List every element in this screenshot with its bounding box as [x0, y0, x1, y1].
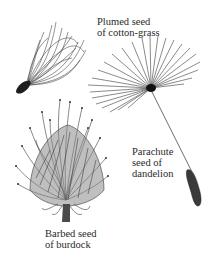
- label-cotton-grass-line-1: Plumed seed: [97, 16, 160, 27]
- label-burdock-line-2: of burdock: [45, 239, 97, 250]
- label-cotton-grass-line-2: of cotton-grass: [97, 27, 160, 38]
- burdock-stem: [62, 204, 70, 222]
- seed-illustration: [0, 0, 219, 257]
- label-burdock: Barbed seed of burdock: [45, 228, 97, 250]
- cotton-grass-seed-body: [16, 81, 31, 94]
- label-dandelion-line-2: seed of: [132, 157, 173, 168]
- burdock-head-body: [30, 125, 104, 206]
- cotton-grass-seed-drawing: [27, 22, 86, 85]
- label-dandelion-line-3: dandelion: [132, 168, 173, 179]
- label-dandelion-line-1: Parachute: [132, 146, 173, 157]
- label-burdock-line-1: Barbed seed: [45, 228, 97, 239]
- label-cotton-grass: Plumed seed of cotton-grass: [97, 16, 160, 38]
- label-dandelion: Parachute seed of dandelion: [132, 146, 173, 179]
- dandelion-seed-body: [186, 170, 201, 206]
- dandelion-rays-drawing: [88, 36, 200, 112]
- dandelion-center: [146, 84, 156, 92]
